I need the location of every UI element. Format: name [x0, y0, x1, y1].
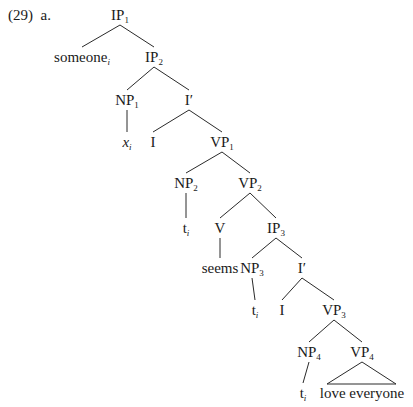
- branch-line: [82, 25, 120, 47]
- tree-node-vp1: VP1: [210, 134, 234, 150]
- tree-node-np3: NP3: [240, 260, 264, 276]
- tree-node-t3: ti: [300, 385, 307, 401]
- branch-line: [252, 278, 255, 300]
- branch-line: [120, 25, 154, 47]
- node-label: NP: [115, 92, 134, 108]
- node-label: someone: [54, 49, 107, 65]
- node-subscript: 3: [280, 228, 285, 238]
- tree-node-i1: I: [151, 134, 156, 150]
- branch-line: [154, 67, 189, 90]
- node-subscript: 1: [124, 15, 129, 25]
- tree-node-i2: I: [280, 302, 285, 318]
- node-subscript: i: [107, 57, 110, 67]
- tree-node-t2: ti: [252, 302, 259, 318]
- tree-node-ip3: IP3: [267, 220, 285, 236]
- branch-line: [282, 278, 302, 300]
- node-label: VP: [238, 175, 257, 191]
- node-label: I: [151, 134, 156, 150]
- node-label: V: [215, 220, 226, 236]
- triangle-abbreviation: [327, 362, 396, 384]
- node-label: I′: [298, 260, 306, 276]
- tree-node-love: love everyone: [320, 385, 405, 401]
- branch-line: [189, 110, 222, 132]
- node-label: NP: [240, 260, 259, 276]
- tree-node-np4: NP4: [297, 344, 321, 360]
- node-subscript: i: [187, 228, 190, 238]
- tree-node-t1: ti: [183, 220, 190, 236]
- node-subscript: i: [256, 310, 259, 320]
- tree-node-vp4: VP4: [350, 344, 374, 360]
- node-subscript: 2: [158, 57, 163, 67]
- branch-line: [309, 320, 334, 342]
- tree-node-seems: seems: [202, 260, 239, 276]
- node-label: I: [280, 302, 285, 318]
- branch-line: [302, 278, 334, 300]
- node-label: I′: [185, 92, 193, 108]
- node-label: NP: [297, 344, 316, 360]
- branch-line: [276, 238, 302, 258]
- node-label: x: [122, 134, 129, 150]
- branch-line: [127, 67, 154, 90]
- branch-line: [186, 152, 222, 173]
- node-subscript: 4: [369, 352, 374, 362]
- branch-line: [220, 193, 250, 218]
- node-subscript: 3: [259, 268, 264, 278]
- node-subscript: 2: [193, 183, 198, 193]
- branch-line: [303, 362, 309, 383]
- node-label: IP: [145, 49, 158, 65]
- node-label: love everyone: [320, 385, 405, 401]
- node-subscript: 3: [341, 310, 346, 320]
- tree-node-ibar2: I′: [298, 260, 306, 276]
- branch-line: [252, 238, 276, 258]
- tree-node-someone: someonei: [54, 49, 110, 65]
- node-subscript: i: [129, 142, 132, 152]
- tree-node-ip1: IP1: [111, 7, 129, 23]
- node-subscript: i: [304, 393, 307, 403]
- node-label: NP: [174, 175, 193, 191]
- node-label: VP: [210, 134, 229, 150]
- node-label: seems: [202, 260, 239, 276]
- branch-line: [222, 152, 250, 173]
- tree-node-np1: NP1: [115, 92, 139, 108]
- branch-line: [153, 110, 189, 132]
- node-label: IP: [111, 7, 124, 23]
- node-subscript: 4: [316, 352, 321, 362]
- node-label: VP: [322, 302, 341, 318]
- node-label: VP: [350, 344, 369, 360]
- node-subscript: 2: [257, 183, 262, 193]
- tree-node-ip2: IP2: [145, 49, 163, 65]
- node-subscript: 1: [134, 100, 139, 110]
- node-label: IP: [267, 220, 280, 236]
- tree-node-ibar1: I′: [185, 92, 193, 108]
- node-subscript: 1: [229, 142, 234, 152]
- tree-node-np2: NP2: [174, 175, 198, 191]
- branch-line: [334, 320, 362, 342]
- tree-node-vp3: VP3: [322, 302, 346, 318]
- tree-node-x_i: xi: [122, 134, 131, 150]
- tree-node-vp2: VP2: [238, 175, 262, 191]
- branch-line: [250, 193, 276, 218]
- tree-node-v: V: [215, 220, 226, 236]
